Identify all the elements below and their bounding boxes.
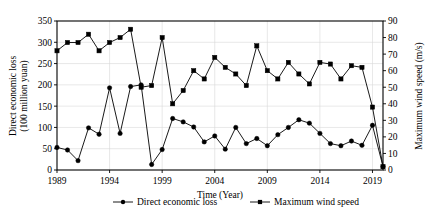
right-tick-label: 10	[388, 149, 398, 159]
left-tick-label: 0	[47, 165, 52, 175]
data-point-circle	[118, 131, 122, 135]
left-axis-title-line1: Direct economic loss	[8, 56, 18, 137]
data-point-circle	[360, 143, 364, 147]
legend-label: Maximum wind speed	[274, 197, 359, 207]
data-point-circle	[276, 132, 280, 136]
left-tick-label: 250	[38, 59, 53, 69]
data-point-circle	[181, 120, 185, 124]
x-tick-label: 2004	[205, 176, 224, 186]
data-point-circle	[328, 141, 332, 145]
data-point-circle	[339, 144, 343, 148]
data-point-circle	[107, 86, 111, 90]
x-tick-label: 2009	[258, 176, 277, 186]
data-point-circle	[244, 141, 248, 145]
data-point-square	[129, 27, 133, 31]
data-point-square	[286, 60, 290, 64]
data-point-circle	[297, 118, 301, 122]
data-point-square	[118, 35, 122, 39]
legend-marker-circle	[121, 200, 125, 204]
data-point-square	[192, 69, 196, 73]
data-point-circle	[97, 132, 101, 136]
data-point-circle	[76, 158, 80, 162]
right-tick-label: 80	[388, 33, 398, 43]
data-point-square	[276, 77, 280, 81]
data-point-square	[202, 77, 206, 81]
right-tick-label: 40	[388, 99, 398, 109]
data-point-square	[297, 72, 301, 76]
data-point-circle	[234, 125, 238, 129]
right-tick-label: 0	[388, 165, 393, 175]
data-point-square	[307, 82, 311, 86]
data-point-circle	[160, 147, 164, 151]
data-point-square	[234, 72, 238, 76]
data-point-square	[360, 65, 364, 69]
data-point-square	[97, 49, 101, 53]
left-tick-label: 50	[43, 144, 53, 154]
left-tick-label: 200	[38, 80, 53, 90]
data-point-square	[223, 65, 227, 69]
data-point-square	[171, 102, 175, 106]
data-point-circle	[349, 139, 353, 143]
left-tick-label: 150	[38, 102, 53, 112]
data-point-square	[213, 55, 217, 59]
right-tick-label: 20	[388, 132, 398, 142]
right-tick-label: 90	[388, 16, 398, 26]
data-point-square	[255, 44, 259, 48]
data-point-square	[370, 105, 374, 109]
data-point-circle	[128, 84, 132, 88]
data-point-circle	[192, 125, 196, 129]
data-point-square	[339, 77, 343, 81]
data-point-square	[76, 40, 80, 44]
right-tick-label: 30	[388, 116, 398, 126]
data-point-square	[160, 35, 164, 39]
data-point-square	[86, 32, 90, 36]
right-tick-label: 60	[388, 66, 398, 76]
data-point-square	[265, 69, 269, 73]
data-point-square	[65, 40, 69, 44]
legend-label: Direct economic loss	[137, 197, 218, 207]
x-tick-label: 2014	[310, 176, 329, 186]
left-tick-label: 100	[38, 123, 53, 133]
data-point-circle	[265, 144, 269, 148]
data-point-square	[244, 83, 248, 87]
data-point-circle	[170, 116, 174, 120]
data-point-circle	[307, 121, 311, 125]
x-tick-label: 1999	[153, 176, 172, 186]
right-axis-title: Maximum wind speed (m/s)	[414, 42, 425, 149]
data-point-square	[349, 64, 353, 68]
data-point-circle	[213, 134, 217, 138]
data-point-square	[318, 60, 322, 64]
data-point-circle	[86, 126, 90, 130]
data-point-circle	[149, 162, 153, 166]
data-point-circle	[65, 148, 69, 152]
x-tick-label: 1994	[100, 176, 119, 186]
data-point-circle	[318, 131, 322, 135]
data-point-circle	[370, 123, 374, 127]
data-point-square	[181, 88, 185, 92]
data-point-circle	[255, 136, 259, 140]
right-tick-label: 70	[388, 50, 398, 60]
data-point-circle	[202, 140, 206, 144]
left-tick-label: 350	[38, 16, 53, 26]
left-tick-label: 300	[38, 38, 53, 48]
x-tick-label: 1989	[48, 176, 67, 186]
data-point-square	[107, 40, 111, 44]
data-point-square	[139, 85, 143, 89]
legend-marker-square	[258, 200, 262, 204]
right-tick-label: 50	[388, 83, 398, 93]
data-point-circle	[223, 147, 227, 151]
data-point-circle	[286, 125, 290, 129]
data-point-square	[150, 83, 154, 87]
dual-axis-line-chart: 050100150200250300350 010203040506070809…	[0, 0, 430, 220]
data-point-square	[328, 62, 332, 66]
left-axis-title-line2: (100 million yuan)	[19, 60, 30, 131]
x-tick-label: 2019	[363, 176, 382, 186]
